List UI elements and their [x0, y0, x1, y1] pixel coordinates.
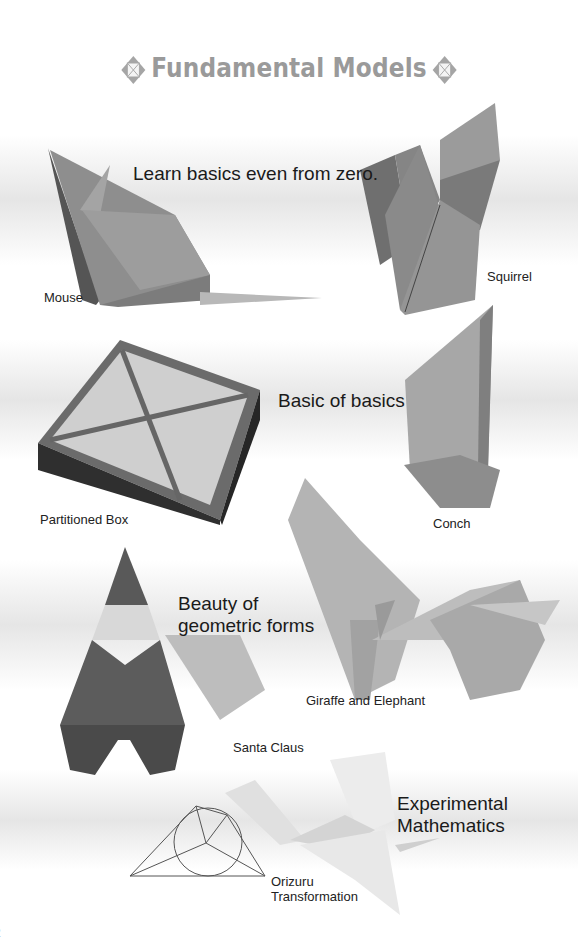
section-1-tagline: Learn basics even from zero. [133, 163, 378, 185]
orizuru-diagram [130, 806, 265, 876]
model-label-partitioned-box: Partitioned Box [40, 512, 128, 527]
model-label-giraffe-elephant: Giraffe and Elephant [306, 693, 425, 708]
conch-figure [404, 305, 500, 508]
model-label-santa-claus: Santa Claus [233, 740, 304, 755]
section-3-tagline: Beauty of geometric forms [178, 593, 318, 637]
giraffe-elephant-figure [288, 478, 560, 700]
page-number: 2 [0, 926, 1, 940]
squirrel-figure [360, 103, 500, 315]
model-label-squirrel: Squirrel [487, 269, 532, 284]
section-2-tagline: Basic of basics [278, 390, 405, 412]
partitioned-box-figure [38, 340, 260, 525]
model-label-mouse: Mouse [44, 290, 83, 305]
model-label-conch: Conch [433, 516, 471, 531]
section-4-tagline: Experimental Mathematics [397, 793, 517, 837]
model-label-orizuru-transformation: Orizuru Transformation [271, 874, 371, 904]
